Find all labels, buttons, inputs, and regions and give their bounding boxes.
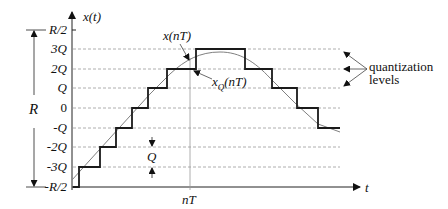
level-label-2q: 2Q	[27, 62, 67, 75]
analog-signal-curve	[72, 52, 340, 180]
level-label-q: Q	[27, 81, 67, 94]
quantization-diagram: R/2 3Q 2Q Q 0 -Q -2Q -3Q -R/2 x(t) t R Q…	[0, 0, 448, 209]
level-label-neg-r-half: -R/2	[27, 180, 67, 193]
quantized-sample-label: xQ(nT)	[212, 75, 247, 92]
level-label-neg-q: -Q	[27, 121, 67, 134]
quantized-staircase	[73, 49, 340, 187]
axes	[72, 12, 360, 190]
quantized-sample-pointer	[194, 71, 212, 79]
x-axis-label: t	[365, 181, 369, 194]
sample-time-label: nT	[182, 193, 196, 206]
step-size-label: Q	[147, 150, 156, 163]
level-label-3q: 3Q	[27, 42, 67, 55]
analog-sample-label: x(nT)	[163, 29, 191, 42]
range-label: R	[29, 102, 38, 117]
level-label-neg-3q: -3Q	[27, 160, 67, 173]
y-axis-label: x(t)	[83, 10, 101, 23]
quantization-levels-pointers	[344, 52, 367, 86]
quantization-levels-label-line2: levels	[369, 73, 399, 86]
level-label-r-half: R/2	[27, 23, 67, 36]
diagram-canvas	[0, 0, 448, 209]
analog-sample-pointer	[180, 44, 189, 60]
level-label-neg-2q: -2Q	[27, 140, 67, 153]
